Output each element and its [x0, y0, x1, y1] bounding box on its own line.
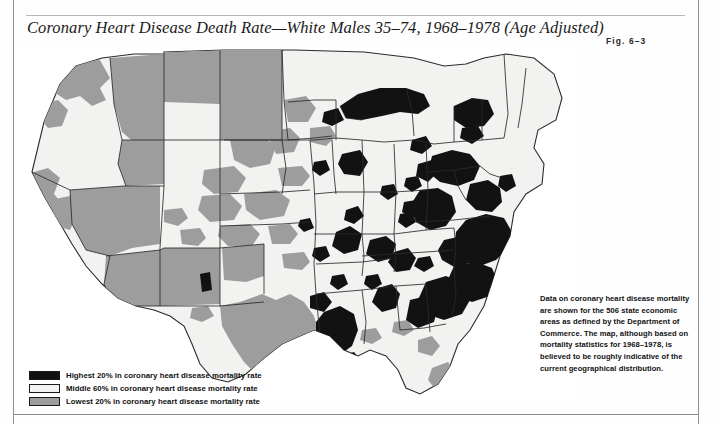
bottom-margin-rule	[13, 414, 699, 415]
figure-page: Coronary Heart Disease Death Rate—White …	[0, 0, 716, 424]
legend-item-middle: Middle 60% in coronary heart disease mor…	[29, 383, 262, 394]
figure-number-label: Fig. 6–3	[606, 36, 646, 46]
title-divider-rule	[26, 15, 685, 16]
legend-label-middle: Middle 60% in coronary heart disease mor…	[66, 384, 258, 393]
figure-title: Coronary Heart Disease Death Rate—White …	[27, 18, 604, 38]
choropleth-map	[14, 44, 574, 404]
legend-label-highest: Highest 20% in coronary heart disease mo…	[66, 371, 262, 380]
legend-label-lowest: Lowest 20% in coronary heart disease mor…	[66, 397, 260, 406]
legend-item-highest: Highest 20% in coronary heart disease mo…	[29, 370, 262, 381]
right-margin-rule	[698, 0, 699, 424]
legend-item-lowest: Lowest 20% in coronary heart disease mor…	[29, 396, 262, 407]
legend-swatch-middle	[29, 384, 60, 393]
legend-swatch-highest	[29, 371, 60, 380]
map-legend: Highest 20% in coronary heart disease mo…	[29, 370, 262, 409]
figure-note: Data on coronary heart disease mortality…	[540, 293, 695, 374]
legend-swatch-lowest	[29, 397, 60, 406]
